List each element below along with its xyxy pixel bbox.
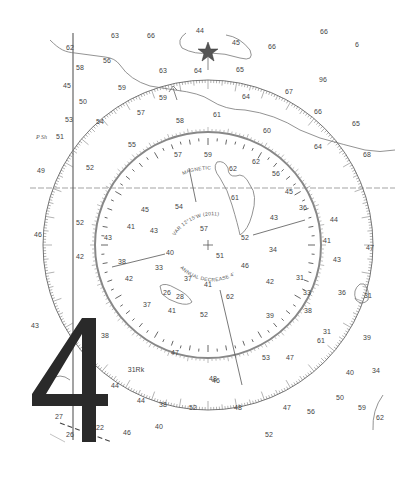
- depth-sounding: 66: [314, 108, 322, 115]
- depth-sounding: 36: [299, 204, 307, 211]
- depth-sounding: 40: [155, 423, 163, 430]
- depth-sounding: 52: [189, 404, 197, 411]
- depth-sounding: 58: [176, 117, 184, 124]
- depth-sounding: 34: [269, 246, 277, 253]
- depth-sounding: 57: [137, 109, 145, 116]
- depth-sounding: 45: [141, 206, 149, 213]
- depth-sounding: 34: [372, 367, 380, 374]
- depth-sounding: 51: [216, 252, 224, 259]
- depth-sounding: 43: [150, 227, 158, 234]
- depth-sounding: 57: [174, 151, 182, 158]
- labels-layer: P Sh: [35, 134, 47, 140]
- depth-sounding: 37: [184, 275, 192, 282]
- depth-sounding: 54: [175, 203, 183, 210]
- depth-sounding: 49: [37, 167, 45, 174]
- depth-sounding: 42: [125, 275, 133, 282]
- depth-sounding: 46: [212, 377, 220, 384]
- depth-sounding: 50: [79, 98, 87, 105]
- depth-sounding: 66: [320, 28, 328, 35]
- depth-sounding: 63: [159, 67, 167, 74]
- depth-sounding: 46: [34, 231, 42, 238]
- depth-sounding: 40: [166, 249, 174, 256]
- depth-sounding: 59: [159, 94, 167, 101]
- depth-sounding: 66: [147, 32, 155, 39]
- depth-sounding: 52: [265, 431, 273, 438]
- depth-sounding: 51: [56, 133, 64, 140]
- depth-sounding: 47: [283, 404, 291, 411]
- depth-sounding: 59: [118, 84, 126, 91]
- depth-sounding: 59: [204, 151, 212, 158]
- depth-sounding: 45: [285, 188, 293, 195]
- depth-sounding: 45: [63, 82, 71, 89]
- bottom-type-label: P Sh: [35, 134, 47, 140]
- depth-sounding: 47: [171, 349, 179, 356]
- depth-sounding: 62: [229, 165, 237, 172]
- depth-sounding: 39: [266, 312, 274, 319]
- depth-sounding: 64: [314, 143, 322, 150]
- depth-sounding: 38: [159, 401, 167, 408]
- depth-sounding: 44: [196, 27, 204, 34]
- depth-sounding: 47: [286, 354, 294, 361]
- depth-sounding: 52: [76, 219, 84, 226]
- depth-sounding: 48: [234, 404, 242, 411]
- depth-sounding: 47: [366, 244, 374, 251]
- depth-sounding: 64: [194, 67, 202, 74]
- depth-sounding: 52: [86, 164, 94, 171]
- depth-sounding: 45: [232, 39, 240, 46]
- depth-sounding: 52: [241, 234, 249, 241]
- depth-sounding: 31: [323, 328, 331, 335]
- depth-sounding: 26: [163, 289, 171, 296]
- depth-sounding: 50: [336, 394, 344, 401]
- large-digit-four: 4: [30, 318, 110, 442]
- depth-sounding: 31: [296, 274, 304, 281]
- depth-sounding: 66: [268, 43, 276, 50]
- depth-sounding: 38: [118, 258, 126, 265]
- depth-sounding: 41: [168, 307, 176, 314]
- depth-sounding: 33: [155, 264, 163, 271]
- depth-sounding: 41: [204, 281, 212, 288]
- depth-sounding: 61: [213, 111, 221, 118]
- depth-sounding: 42: [76, 253, 84, 260]
- depth-sounding: 41: [323, 237, 331, 244]
- depth-sounding: 43: [270, 214, 278, 221]
- depth-sounding: 57: [200, 225, 208, 232]
- depth-sounding: 46: [241, 262, 249, 269]
- depth-sounding: 42: [266, 278, 274, 285]
- depth-sounding: 59: [358, 404, 366, 411]
- depth-sounding: 61: [317, 337, 325, 344]
- depth-sounding: 54: [96, 118, 104, 125]
- depth-sounding: 61: [231, 194, 239, 201]
- depth-sounding: 96: [319, 76, 327, 83]
- depth-sounding: 56: [272, 170, 280, 177]
- depth-sounding: 40: [346, 369, 354, 376]
- depth-sounding: 36: [338, 289, 346, 296]
- depth-sounding: 62: [66, 44, 74, 51]
- depth-sounding: 44: [111, 382, 119, 389]
- depth-sounding: 39: [363, 334, 371, 341]
- depth-sounding: 41: [127, 223, 135, 230]
- depth-sounding: 58: [76, 64, 84, 71]
- depth-sounding: 62: [376, 414, 384, 421]
- depth-sounding: 44: [330, 216, 338, 223]
- depth-sounding: 55: [128, 141, 136, 148]
- depth-sounding: 52: [200, 311, 208, 318]
- depth-sounding: 43: [104, 234, 112, 241]
- depth-sounding: 33: [303, 289, 311, 296]
- depth-sounding: 6: [355, 41, 359, 48]
- depth-sounding: 62: [226, 293, 234, 300]
- depth-sounding: 67: [285, 88, 293, 95]
- depth-sounding: 65: [236, 66, 244, 73]
- depth-sounding: 53: [65, 116, 73, 123]
- depth-sounding: 63: [111, 32, 119, 39]
- depth-sounding: 43: [333, 256, 341, 263]
- depth-sounding: 65: [352, 120, 360, 127]
- depth-sounding: 38: [304, 307, 312, 314]
- depth-sounding: 64: [242, 93, 250, 100]
- depth-sounding: 62: [252, 158, 260, 165]
- depth-sounding: 31: [364, 292, 372, 299]
- depth-sounding: 60: [263, 127, 271, 134]
- depth-sounding: 56: [103, 57, 111, 64]
- depth-sounding: 37: [143, 301, 151, 308]
- depth-sounding: 68: [363, 151, 371, 158]
- depth-sounding: 53: [262, 354, 270, 361]
